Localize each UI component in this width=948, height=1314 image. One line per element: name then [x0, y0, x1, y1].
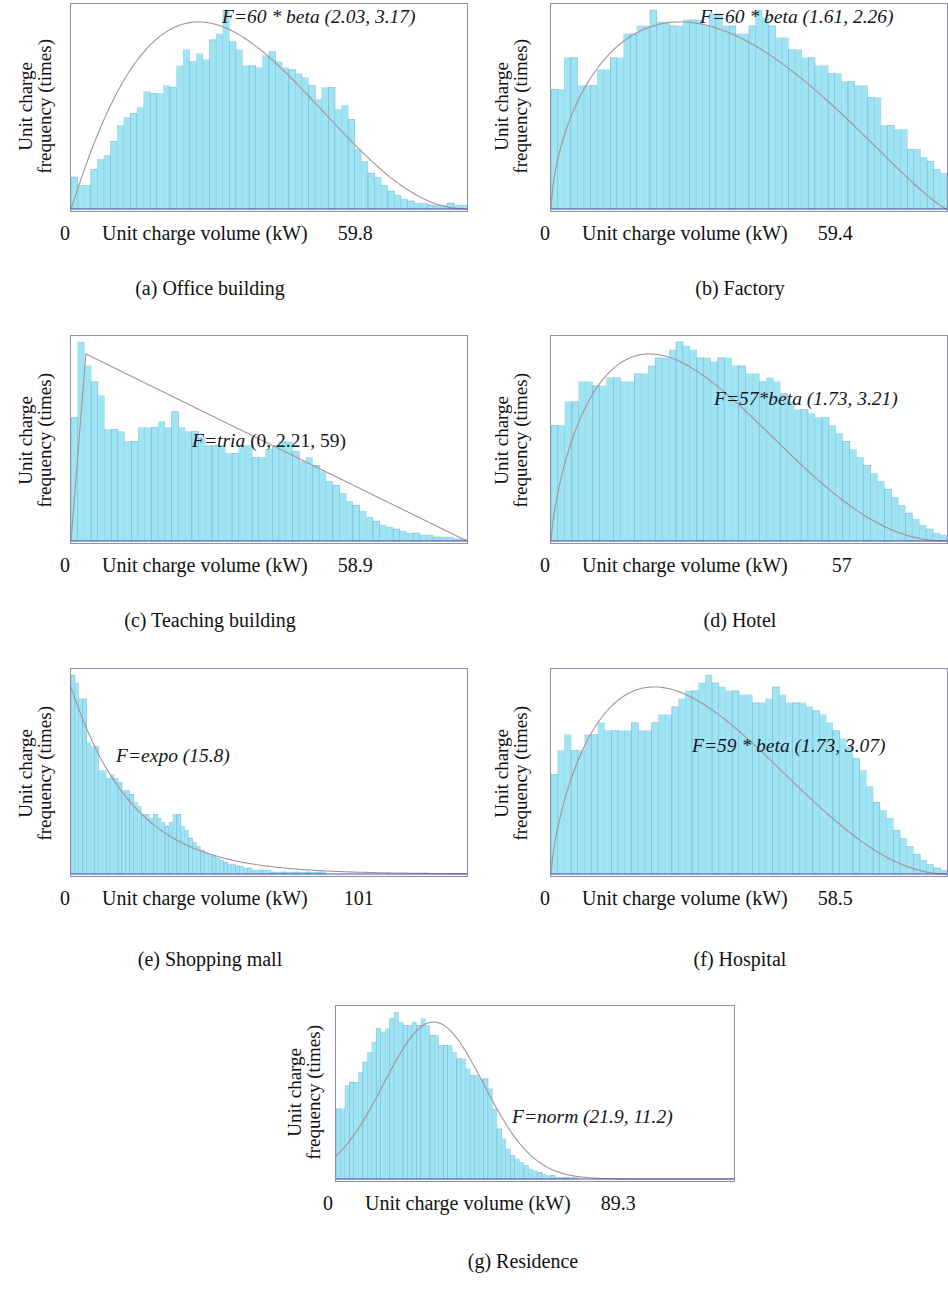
plot-area-f: [550, 668, 948, 877]
panel-office-building: Unit charge frequency (times) F=60 * bet…: [0, 0, 474, 320]
caption-a: (a) Office building: [0, 277, 420, 300]
x-axis-min-c: 0: [60, 554, 102, 577]
plot-area-a: [70, 3, 468, 212]
histogram-e: [71, 669, 467, 876]
formula-c-roman: (0, 2.21, 59): [245, 430, 346, 451]
x-axis-title-b: Unit charge volume (kW): [582, 222, 788, 245]
y-axis-label-g: Unit charge frequency (times): [271, 1002, 333, 1182]
caption-e: (e) Shopping mall: [0, 948, 420, 971]
histogram-g: [336, 1006, 734, 1181]
y-axis-label-c: Unit charge frequency (times): [2, 334, 64, 546]
y-axis-label-line2: frequency (times): [511, 706, 530, 841]
x-axis-row-a: 0 Unit charge volume (kW) 59.8: [60, 222, 470, 245]
x-axis-row-f: 0 Unit charge volume (kW) 58.5: [540, 887, 948, 910]
y-axis-label-e: Unit charge frequency (times): [2, 667, 64, 879]
y-axis-label-line2: frequency (times): [35, 39, 54, 174]
caption-f: (f) Hospital: [540, 948, 940, 971]
x-axis-max-a: 59.8: [338, 222, 373, 245]
y-axis-label-a: Unit charge frequency (times): [2, 0, 64, 212]
panel-hotel: Unit charge frequency (times) F=57*beta …: [474, 330, 948, 650]
x-axis-row-c: 0 Unit charge volume (kW) 58.9: [60, 554, 470, 577]
y-axis-label-line2: frequency (times): [35, 373, 54, 508]
caption-d: (d) Hotel: [540, 609, 940, 632]
panel-hospital: Unit charge frequency (times) F=59 * bet…: [474, 663, 948, 993]
x-axis-max-g: 89.3: [601, 1192, 636, 1215]
formula-c-italic: F=tria: [192, 430, 245, 451]
panel-shopping-mall: Unit charge frequency (times) F=expo (15…: [0, 663, 474, 993]
histogram-b: [551, 4, 947, 211]
x-axis-min-d: 0: [540, 554, 582, 577]
x-axis-max-c: 58.9: [338, 554, 373, 577]
histogram-f: [551, 669, 947, 876]
x-axis-min-e: 0: [60, 887, 102, 910]
formula-annotation-d: F=57*beta (1.73, 3.21): [714, 388, 898, 410]
x-axis-min-a: 0: [60, 222, 102, 245]
x-axis-title-a: Unit charge volume (kW): [102, 222, 308, 245]
x-axis-title-c: Unit charge volume (kW): [102, 554, 308, 577]
x-axis-title-d: Unit charge volume (kW): [582, 554, 788, 577]
panel-teaching-building: Unit charge frequency (times) F=tria (0,…: [0, 330, 474, 650]
y-axis-label-line2: frequency (times): [511, 373, 530, 508]
y-axis-label-line1: Unit charge: [492, 729, 511, 818]
x-axis-max-f: 58.5: [818, 887, 853, 910]
x-axis-row-e: 0 Unit charge volume (kW) 101: [60, 887, 470, 910]
y-axis-label-line2: frequency (times): [35, 706, 54, 841]
y-axis-label-line1: Unit charge: [492, 396, 511, 485]
y-axis-label-line1: Unit charge: [16, 729, 35, 818]
x-axis-row-b: 0 Unit charge volume (kW) 59.4: [540, 222, 948, 245]
plot-area-d: [550, 335, 948, 544]
x-axis-title-f: Unit charge volume (kW): [582, 887, 788, 910]
plot-area-b: [550, 3, 948, 212]
x-axis-title-e: Unit charge volume (kW): [102, 887, 308, 910]
y-axis-label-line1: Unit charge: [285, 1048, 304, 1137]
histogram-d: [551, 336, 947, 543]
panel-factory: Unit charge frequency (times) F=60 * bet…: [474, 0, 948, 320]
formula-annotation-f: F=59 * beta (1.73, 3.07): [692, 735, 886, 757]
formula-annotation-a: F=60 * beta (2.03, 3.17): [222, 6, 416, 28]
x-axis-min-g: 0: [323, 1192, 365, 1215]
y-axis-label-line1: Unit charge: [492, 62, 511, 151]
formula-annotation-g: F=norm (21.9, 11.2): [512, 1106, 673, 1128]
caption-g: (g) Residence: [323, 1250, 723, 1273]
formula-annotation-b: F=60 * beta (1.61, 2.26): [700, 6, 894, 28]
x-axis-max-e: 101: [344, 887, 374, 910]
y-axis-label-line1: Unit charge: [16, 62, 35, 151]
x-axis-max-b: 59.4: [818, 222, 853, 245]
caption-c: (c) Teaching building: [0, 609, 420, 632]
histogram-a: [71, 4, 467, 211]
y-axis-label-d: Unit charge frequency (times): [478, 334, 540, 546]
x-axis-max-d: 57: [832, 554, 852, 577]
x-axis-min-b: 0: [540, 222, 582, 245]
y-axis-label-line2: frequency (times): [304, 1025, 323, 1160]
y-axis-label-f: Unit charge frequency (times): [478, 667, 540, 879]
x-axis-min-f: 0: [540, 887, 582, 910]
caption-b: (b) Factory: [540, 277, 940, 300]
x-axis-row-g: 0 Unit charge volume (kW) 89.3: [323, 1192, 743, 1215]
plot-area-e: [70, 668, 468, 877]
y-axis-label-line1: Unit charge: [16, 396, 35, 485]
y-axis-label-b: Unit charge frequency (times): [478, 0, 540, 212]
x-axis-title-g: Unit charge volume (kW): [365, 1192, 571, 1215]
formula-annotation-e: F=expo (15.8): [116, 745, 230, 767]
plot-area-g: [335, 1005, 735, 1182]
y-axis-label-line2: frequency (times): [511, 39, 530, 174]
formula-annotation-c: F=tria (0, 2.21, 59): [192, 430, 346, 452]
x-axis-row-d: 0 Unit charge volume (kW) 57: [540, 554, 948, 577]
panel-residence: Unit charge frequency (times) F=norm (21…: [237, 1000, 747, 1314]
